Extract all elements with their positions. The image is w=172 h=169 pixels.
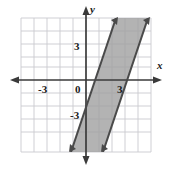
y-axis-arrow-down (83, 156, 90, 165)
coordinate-graph-figure: -3 3 0 3 -3 x y (0, 0, 172, 169)
x-axis-arrow-left (10, 77, 19, 84)
graph-plot-area (0, 0, 172, 169)
x-axis-tick-label-neg3: -3 (38, 84, 47, 95)
y-axis-tick-label-pos3: 3 (74, 41, 80, 52)
x-axis-arrow-right (153, 77, 162, 84)
x-axis-name-label: x (157, 60, 163, 71)
y-axis-name-label: y (90, 4, 95, 15)
origin-label: 0 (75, 84, 81, 95)
x-axis-tick-label-pos3: 3 (117, 84, 123, 95)
y-axis-tick-label-neg3: -3 (70, 110, 79, 121)
y-axis-arrow-up (83, 6, 90, 15)
